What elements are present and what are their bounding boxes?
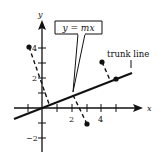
data-point [26,44,31,49]
trunk-line-diagram: x 2 4 y 4 2 −2 y = mx trun [0,0,161,161]
equation-label: y = mx [62,23,95,33]
trunk-label-group: trunk line [107,49,149,68]
x-tick-label: 2 [69,115,74,124]
x-axis: x 2 4 [14,104,152,124]
y-axis: y 4 2 −2 [26,10,46,152]
y-axis-label: y [37,10,43,19]
equation-callout: y = mx [55,21,102,92]
y-tick-label: −2 [26,134,38,143]
data-point [84,121,89,126]
y-tick-label: 4 [32,44,37,53]
x-axis-label: x [147,104,152,113]
data-point [99,59,104,64]
line-point [113,76,118,81]
y-tick-label: 2 [32,74,37,83]
trunk-line-label: trunk line [107,49,149,59]
x-tick-label: 4 [98,115,103,124]
